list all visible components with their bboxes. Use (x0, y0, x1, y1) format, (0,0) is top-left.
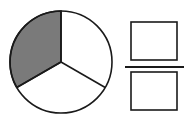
divider-line-lower-right (61, 62, 105, 88)
fraction-circle (10, 11, 112, 113)
denominator-box[interactable] (131, 72, 177, 110)
fraction-answer (125, 22, 184, 110)
numerator-box[interactable] (131, 22, 177, 60)
fraction-diagram (0, 0, 184, 123)
